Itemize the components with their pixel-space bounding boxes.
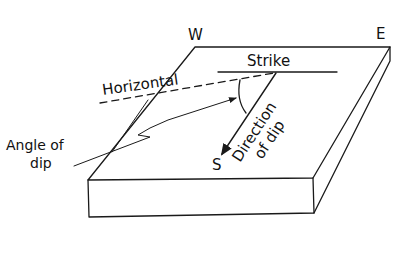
strike-label: Strike bbox=[247, 52, 290, 70]
horizontal-label: Horizontal bbox=[101, 70, 179, 98]
strike-dip-diagram: W E Strike Horizontal Angle of dip S Dir… bbox=[0, 0, 394, 258]
dip-angle-arc bbox=[239, 80, 246, 113]
diagram-canvas: W E Strike Horizontal Angle of dip S Dir… bbox=[0, 0, 394, 258]
compass-east-label: E bbox=[376, 25, 385, 43]
compass-west-label: W bbox=[188, 26, 203, 44]
angle-of-dip-label-line1: Angle of bbox=[6, 137, 65, 153]
compass-south-label: S bbox=[212, 156, 222, 174]
bed-front-face bbox=[88, 178, 314, 217]
angle-of-dip-label-line2: dip bbox=[30, 155, 52, 171]
